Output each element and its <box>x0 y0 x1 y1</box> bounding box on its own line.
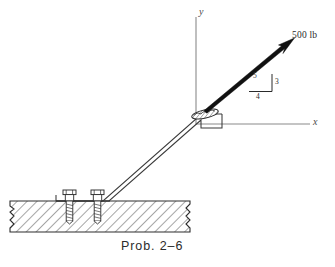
slope-horizontal-label: 4 <box>256 93 260 101</box>
x-axis-label: x <box>313 117 317 127</box>
slope-vertical-label: 3 <box>275 78 279 86</box>
bracket-inner-edge <box>56 114 222 201</box>
force-vector <box>204 38 295 113</box>
bolt-left-shank <box>66 201 73 224</box>
weld-bead <box>191 107 219 121</box>
problem-figure: y x 500 lb 5 3 4 Prob. 2–6 <box>0 0 335 267</box>
bolt-right-shank <box>94 201 101 224</box>
figure-drawing <box>0 0 335 267</box>
force-magnitude-label: 500 lb <box>292 31 317 41</box>
bolt-right-collar <box>93 195 101 201</box>
bracket-plate <box>56 114 222 201</box>
figure-caption: Prob. 2–6 <box>121 240 183 253</box>
slope-hypotenuse-label: 5 <box>253 72 257 80</box>
y-axis-label: y <box>199 7 203 17</box>
bolt-right-head <box>91 190 104 195</box>
bolt-left-collar <box>65 195 73 201</box>
bracket-outer-edge <box>56 114 222 201</box>
bolt-left-head <box>63 190 76 195</box>
